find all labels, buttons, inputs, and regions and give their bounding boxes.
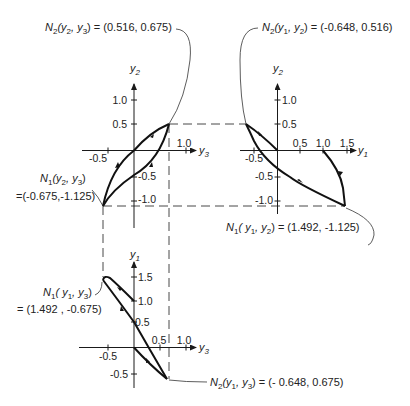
trajectory-curves: [103, 124, 169, 206]
branch-b: [103, 280, 167, 379]
annotation-n2-y1-y2: N2(y1, y2) = (-0.648, 0.516): [262, 21, 392, 36]
axis-label-y3: y3: [198, 144, 210, 159]
plot-y2-vs-y1: 1.0 0.5 -0.5 0.5 1.0 1.5 -0.5 -1.0 y2 y1…: [226, 21, 392, 245]
tick-label: -0.5: [245, 152, 263, 164]
branch-c: [246, 124, 278, 151]
tick-label: 0.5: [135, 316, 150, 328]
leader-line: [169, 29, 190, 124]
plot-y1-vs-y3: 1.5 1.0 0.5 -0.5 0.5 1.0 -0.5 y1 y3 N1( …: [17, 248, 344, 391]
diagram-svg: 1.0 0.5 -0.5 1.0 -0.5 -1.0 y2 y3 N2(y2, …: [0, 0, 410, 406]
axis-label-y2: y2: [129, 62, 141, 77]
tick-label: -0.5: [89, 152, 107, 164]
leader-line: [95, 282, 102, 295]
axis-label-y2: y2: [272, 62, 284, 77]
tick-label: 0.5: [293, 137, 308, 149]
tick-label: -0.5: [255, 170, 273, 182]
axis-label-y1: y1: [129, 248, 140, 263]
annotation-n1-y2-y3: N1(y2, y3): [40, 172, 86, 187]
phase-plane-diagram: 1.0 0.5 -0.5 1.0 -0.5 -1.0 y2 y3 N2(y2, …: [0, 0, 410, 406]
tick-label: 1.0: [177, 137, 192, 149]
tick-label: 1.5: [340, 137, 355, 149]
tick-label: 0.5: [112, 118, 127, 130]
lower-branch: [103, 124, 169, 206]
axis-label-y1: y1: [357, 144, 368, 159]
annotation-n1-y1-y2: N1( y1, y2) = (1.492, -1.125): [226, 221, 360, 236]
annotation-n1-y1-y3: N1( y1, y3): [43, 286, 92, 301]
tick-label: 1.5: [138, 271, 153, 283]
projection-dashed-lines: [103, 124, 345, 379]
annotation-n2-y1-y3: N2(y1, y3) = (- 0.648, 0.675): [210, 376, 344, 391]
axis-label-y3: y3: [198, 341, 210, 356]
tick-label: -0.5: [99, 350, 117, 362]
tick-label: -0.5: [138, 170, 156, 182]
tick-label: 0.5: [152, 334, 167, 346]
leader-line: [169, 380, 207, 382]
annotation-n2-y2-y3: N2(y2, y3) = (0.516, 0.675): [45, 21, 172, 36]
tick-label: 1.0: [316, 137, 331, 149]
plot-y2-vs-y3: 1.0 0.5 -0.5 1.0 -0.5 -1.0 y2 y3 N2(y2, …: [16, 21, 210, 228]
tick-label: 1.0: [282, 94, 297, 106]
tick-label: 1.0: [177, 334, 192, 346]
tick-label: 1.0: [138, 295, 153, 307]
tick-label: -1.0: [255, 194, 273, 206]
annotation-n1-y1-y3-value: = (1.492 , -0.675): [17, 303, 102, 315]
tick-label: 1.0: [112, 94, 127, 106]
tick-label: -1.0: [138, 193, 156, 205]
tick-label: -0.5: [110, 368, 128, 380]
annotation-n1-y2-y3-value: =(-0.675,-1.125): [16, 190, 95, 202]
leader-line: [240, 28, 258, 124]
tick-label: 0.5: [282, 118, 297, 130]
